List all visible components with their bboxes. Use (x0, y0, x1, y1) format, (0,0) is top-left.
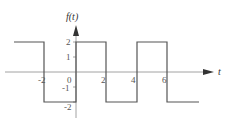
x-tick-label: 6 (162, 75, 167, 85)
x-tick-label: -2 (38, 75, 46, 85)
x-tick-label: 2 (101, 75, 106, 85)
y-tick-label: -2 (64, 102, 72, 112)
y-tick-label: -1 (62, 83, 70, 93)
f-axis-arrow-icon (73, 25, 79, 36)
y-tick-label: 1 (66, 52, 71, 62)
x-axis-label: t (218, 66, 221, 77)
x-tick-label: 4 (131, 75, 136, 85)
square-wave-plot: f(t) t 0 -2 2 4 6 2 1 -1 -2 (0, 0, 233, 121)
y-axis-label: f(t) (66, 11, 79, 23)
t-axis-arrow-icon (203, 69, 214, 75)
y-tick-label: 2 (66, 37, 71, 47)
